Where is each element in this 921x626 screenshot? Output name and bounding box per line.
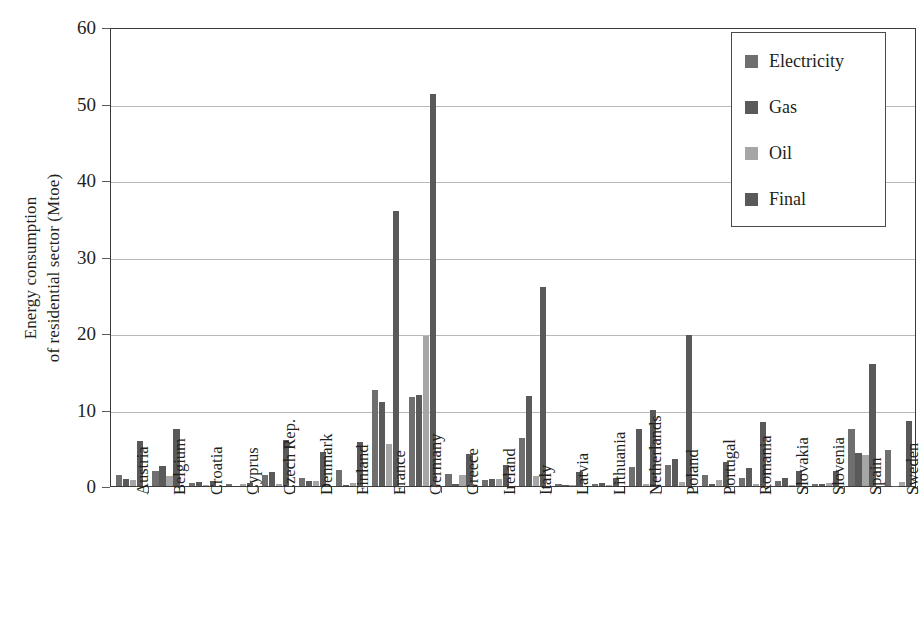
bar-electricity (372, 390, 378, 486)
legend-label: Final (769, 190, 806, 208)
x-axis-label: Belgium (171, 438, 188, 495)
bar-group (336, 29, 363, 486)
bar-group (299, 29, 326, 486)
bar-gas (269, 472, 275, 486)
y-axis-tick-mark (102, 258, 110, 259)
legend-item-oil[interactable]: Oil (745, 142, 792, 164)
y-axis-tick-mark (102, 411, 110, 412)
x-axis-label: Croatia (208, 446, 225, 495)
bar-electricity (885, 450, 891, 486)
bar-electricity (592, 484, 598, 486)
bar-final (430, 94, 436, 486)
y-axis-tick-label: 30 (8, 248, 96, 267)
bar-group (885, 29, 912, 486)
bar-group (519, 29, 546, 486)
x-axis-label: Sweden (904, 443, 921, 495)
y-axis-ticks: 0102030405060 (0, 0, 110, 626)
bar-gas (489, 479, 495, 486)
bar-electricity (848, 429, 854, 486)
bar-electricity (812, 484, 818, 486)
legend-label: Electricity (769, 52, 844, 70)
x-axis-label: Poland (684, 449, 701, 495)
bar-electricity (629, 467, 635, 486)
y-axis-tick-label: 20 (8, 324, 96, 343)
legend-swatch-icon (745, 55, 758, 68)
y-axis-tick-label: 60 (8, 18, 96, 37)
bar-electricity (116, 475, 122, 486)
x-axis-label: Romania (757, 435, 774, 495)
legend-label: Gas (769, 98, 797, 116)
bar-group (116, 29, 143, 486)
bar-gas (159, 466, 165, 486)
bar-electricity (189, 483, 195, 486)
bar-electricity (445, 474, 451, 486)
chart-legend: ElectricityGasOilFinal (731, 32, 886, 227)
x-axis-label: Greece (464, 448, 481, 495)
y-axis-tick-label: 0 (8, 477, 96, 496)
legend-item-gas[interactable]: Gas (745, 96, 797, 118)
bar-group (189, 29, 216, 486)
y-axis-tick-label: 40 (8, 171, 96, 190)
x-axis-label: Finland (354, 445, 371, 495)
y-axis-tick-label: 10 (8, 401, 96, 420)
bar-electricity (665, 465, 671, 486)
bar-group (372, 29, 399, 486)
bar-group (555, 29, 582, 486)
legend-item-final[interactable]: Final (745, 188, 806, 210)
bar-electricity (262, 475, 268, 486)
bar-gas (379, 402, 385, 486)
x-axis-labels: AustriaBelgiumCroatiaCyprusCzech Rep.Den… (110, 487, 916, 626)
bar-group (445, 29, 472, 486)
bar-electricity (555, 484, 561, 486)
bar-electricity (775, 481, 781, 486)
bar-gas (709, 484, 715, 486)
x-axis-label: Latvia (574, 453, 591, 495)
legend-item-electricity[interactable]: Electricity (745, 50, 844, 72)
x-axis-label: Czech Rep. (281, 419, 298, 495)
bar-gas (343, 485, 349, 486)
bar-electricity (702, 475, 708, 486)
x-axis-label: Cyprus (244, 447, 261, 495)
bar-gas (196, 482, 202, 486)
legend-swatch-icon (745, 147, 758, 160)
bar-electricity (519, 438, 525, 486)
bar-group (262, 29, 289, 486)
x-axis-label: Ireland (501, 448, 518, 495)
x-axis-label: Austria (134, 446, 151, 495)
x-axis-label: Spain (867, 457, 884, 495)
x-axis-label: Germany (427, 434, 444, 495)
bar-gas (672, 459, 678, 486)
bar-gas (819, 484, 825, 486)
bar-electricity (482, 480, 488, 486)
y-axis-tick-mark (102, 105, 110, 106)
bar-gas (123, 479, 129, 486)
bar-electricity (299, 478, 305, 486)
bar-electricity (336, 470, 342, 486)
bar-final (393, 211, 399, 486)
bar-group (665, 29, 692, 486)
x-axis-label: Slovakia (794, 437, 811, 495)
x-axis-label: France (391, 450, 408, 495)
bar-group (592, 29, 619, 486)
bar-gas (526, 396, 532, 486)
bar-group (409, 29, 436, 486)
legend-label: Oil (769, 144, 792, 162)
bar-electricity (226, 484, 232, 486)
bar-electricity (739, 478, 745, 486)
bar-gas (306, 481, 312, 486)
x-axis-label: Slovenia (830, 437, 847, 495)
legend-swatch-icon (745, 193, 758, 206)
chart-figure: Energy consumption of residential sector… (0, 0, 921, 626)
bar-electricity (152, 471, 158, 486)
bar-gas (855, 453, 861, 486)
bar-group (702, 29, 729, 486)
bar-group (152, 29, 179, 486)
bar-gas (416, 395, 422, 486)
bar-gas (782, 478, 788, 486)
bar-gas (636, 429, 642, 486)
bar-gas (452, 484, 458, 486)
y-axis-tick-mark (102, 334, 110, 335)
bar-gas (599, 483, 605, 486)
bar-gas (746, 468, 752, 486)
bar-final (540, 287, 546, 486)
